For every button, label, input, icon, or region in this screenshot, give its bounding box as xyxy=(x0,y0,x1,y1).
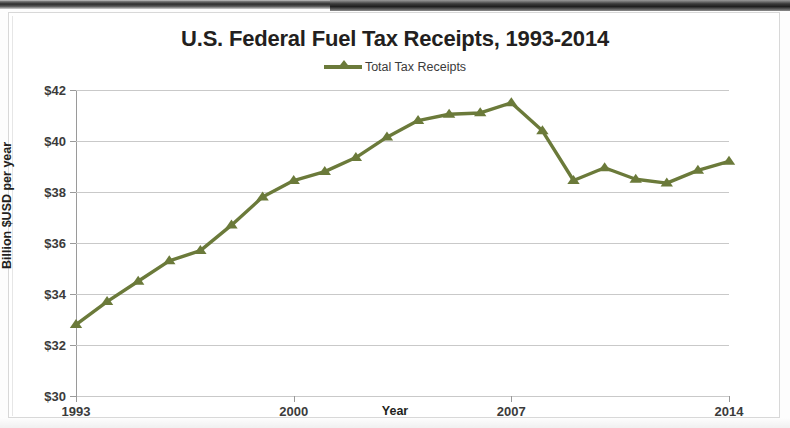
x-axis-title: Year xyxy=(0,404,790,418)
scanned-page: U.S. Federal Fuel Tax Receipts, 1993-201… xyxy=(0,0,790,428)
series-total-tax-receipts xyxy=(76,90,729,396)
y-tick-label: $42 xyxy=(44,83,66,98)
legend-label-total-tax-receipts: Total Tax Receipts xyxy=(365,60,466,74)
x-tick-mark xyxy=(294,396,295,402)
scan-bottom-smudge xyxy=(0,418,790,428)
x-tick-mark xyxy=(76,396,77,402)
y-tick-label: $38 xyxy=(44,185,66,200)
gridline-$30 xyxy=(76,396,729,397)
x-tick-mark xyxy=(511,396,512,402)
series-line xyxy=(76,103,729,325)
y-tick-label: $36 xyxy=(44,236,66,251)
y-tick-label: $40 xyxy=(44,134,66,149)
scan-top-band-dark xyxy=(330,0,790,11)
legend-marker-total-tax-receipts xyxy=(324,65,362,69)
chart-legend: Total Tax Receipts xyxy=(0,60,790,74)
chart-title: U.S. Federal Fuel Tax Receipts, 1993-201… xyxy=(0,26,790,52)
y-axis-title: Billion $USD per year xyxy=(0,142,14,269)
x-tick-mark xyxy=(729,396,730,402)
data-point-marker xyxy=(505,97,517,106)
y-tick-label: $34 xyxy=(44,287,66,302)
y-tick-label: $30 xyxy=(44,389,66,404)
y-tick-label: $32 xyxy=(44,338,66,353)
data-point-marker xyxy=(598,162,610,171)
plot-area: $30$32$34$36$38$40$42 1993200020072014 xyxy=(76,90,729,396)
